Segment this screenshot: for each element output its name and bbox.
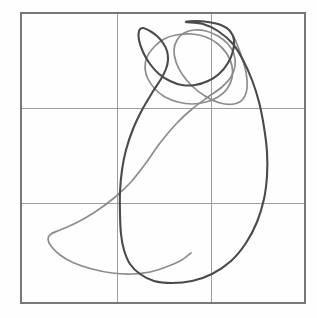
curves-group	[48, 21, 267, 283]
trajectory-dark-path	[120, 21, 268, 283]
plot-canvas	[0, 0, 317, 318]
trajectory-light-outer-path	[48, 30, 247, 274]
trajectory-light-path	[145, 34, 233, 104]
figure-container	[0, 0, 317, 318]
plot-frame	[21, 13, 305, 303]
grid-group	[21, 13, 305, 303]
